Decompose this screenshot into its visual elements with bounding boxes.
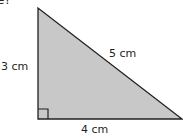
hypotenuse-label: 5 cm [109, 47, 136, 60]
triangle-shape [38, 8, 182, 119]
horizontal-side-label: 4 cm [81, 123, 108, 136]
vertical-side-label: 3 cm [1, 60, 28, 73]
